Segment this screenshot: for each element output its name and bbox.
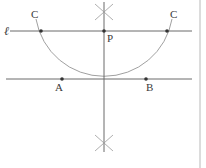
label-point-c-right: C bbox=[170, 9, 177, 20]
geometry-figure: ℓ C C P A B bbox=[0, 0, 206, 168]
geometry-canvas bbox=[0, 0, 206, 168]
point-c-right-dot bbox=[165, 29, 169, 33]
label-point-c-left: C bbox=[31, 9, 38, 20]
label-point-p: P bbox=[107, 33, 113, 44]
label-line-l: ℓ bbox=[4, 25, 9, 37]
label-point-a: A bbox=[55, 82, 63, 93]
label-point-b: B bbox=[146, 82, 153, 93]
point-c-left-dot bbox=[39, 29, 43, 33]
point-p-dot bbox=[102, 29, 106, 33]
